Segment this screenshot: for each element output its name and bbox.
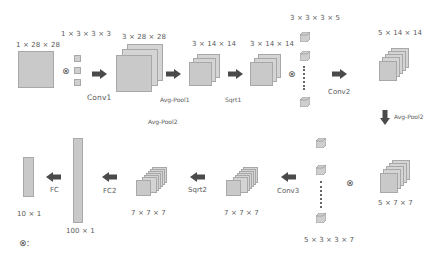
fmap1-label: 3 × 28 × 28 [122,33,166,41]
fmap1-layer-1 [116,55,152,92]
conv1-label: Conv1 [87,93,111,102]
left-arrow-icon [281,172,296,182]
left-arrow-icon [190,172,205,182]
down-arrow-icon [380,110,390,125]
kernel2-label: 3 × 3 × 3 × 5 [290,14,340,22]
left-arrow-icon [102,172,117,182]
fmap6-layer-1 [226,180,241,196]
conv2-label: Conv2 [328,88,350,96]
fmap6-label: 7 × 7 × 7 [224,209,259,217]
avgpool2-label: Avg-Pool2 [394,113,424,120]
kernel1-cell-3 [74,79,81,86]
right-arrow-icon [166,69,181,79]
kernel3-cube-n [316,213,326,223]
right-arrow-icon [92,69,107,79]
vec100-label: 100 × 1 [66,227,95,235]
left-arrow-icon [46,172,61,182]
fc-label: FC [50,186,59,194]
fmap4-label: 5 × 14 × 14 [378,29,422,37]
vector-100 [73,138,83,223]
convolution-operator-3: ⊗ [346,179,354,188]
input-label: 1 × 28 × 28 [16,41,60,49]
vector-10 [23,157,34,197]
kernel2-cube-2 [300,51,310,61]
fmap5-layer-1 [380,173,398,193]
fmap4-layer-1 [379,61,397,81]
convolution-legend: ⊗: [19,239,30,248]
kernel2-cube-n [300,97,310,107]
fc2-label: FC2 [103,187,116,195]
kernel3-cube-2 [316,165,326,175]
fmap7-layer-1 [136,180,151,196]
fmap3-layer-1 [250,62,273,86]
right-arrow-icon [228,69,243,79]
fmap5-label: 5 × 7 × 7 [378,199,413,207]
avgpool1-label: Avg-Pool1 [160,96,190,103]
kernel1-cell-2 [74,67,81,74]
kernel3-label: 5 × 3 × 3 × 7 [304,236,354,244]
sqrt1-label: Sqrt1 [225,96,241,103]
right-arrow-icon [332,69,347,79]
convolution-operator-1: ⊗ [62,67,70,76]
sqrt2-label: Sqrt2 [188,186,207,194]
kernel3-cube-1 [316,138,326,148]
kernel2-ellipsis [303,66,307,90]
kernel1-label: 1 × 3 × 3 × 3 [61,30,111,38]
avgpool2-note-label: Avg-Pool2 [148,118,178,125]
fmap2-layer-1 [189,62,212,86]
kernel3-ellipsis [320,181,324,208]
kernel2-cube-1 [300,32,310,42]
convolution-operator-2: ⊗ [288,70,296,79]
fmap7-label: 7 × 7 × 7 [131,209,166,217]
conv3-label: Conv3 [277,187,299,195]
kernel1-cell-1 [74,55,81,62]
fmap2-label: 3 × 14 × 14 [192,40,236,48]
fmap3-label: 3 × 14 × 14 [250,40,294,48]
vec10-label: 10 × 1 [17,210,41,218]
input-feature-map [18,51,54,88]
